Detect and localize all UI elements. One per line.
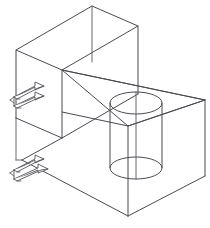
figure-canvas (0, 0, 210, 228)
upper-box-right-lower-edge (62, 94, 138, 138)
lower-box-inner-diagonal-edge (128, 100, 205, 126)
lower-box-floor-back-left-edge (22, 138, 62, 160)
lower-box-top-face (62, 70, 205, 126)
upper-enclosure (16, 6, 138, 138)
upper-inlet-plate-edge-2 (10, 97, 14, 100)
lower-inlet-plate-edge-3 (10, 173, 14, 176)
lower-box-inner-diagonal-edge-2 (62, 112, 128, 126)
lower-box-top-left-edge (62, 70, 205, 100)
upper-box-top-face (16, 6, 138, 70)
upper-inlet-plate-edge-3 (10, 100, 14, 103)
lower-inlet-plate-edge-2 (10, 170, 14, 173)
upper-inlet-arrows (10, 82, 44, 108)
upper-box-front-lower-edge (16, 118, 62, 138)
inner-cylinder (110, 92, 162, 179)
lower-box-floor-right-edge (128, 176, 205, 216)
isometric-wireframe-drawing (0, 0, 210, 228)
